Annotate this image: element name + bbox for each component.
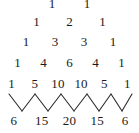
- triangle-row-5: 1 5 10 10 5 1: [0, 77, 139, 90]
- triangle-row-6: 6 15 20 15 6: [0, 114, 139, 127]
- connector-stroke: [87, 94, 99, 111]
- triangle-cell: 1: [46, 0, 59, 10]
- pascal-triangle-figure: 1 1 1 2 1 1 3 3 1 1 4 6 4 1 1 5 10 10 5 …: [0, 0, 139, 133]
- triangle-cell: 1: [20, 35, 33, 48]
- connector-stroke: [48, 94, 61, 111]
- triangle-cell: 6: [116, 114, 134, 127]
- triangle-cell: 10: [74, 77, 89, 90]
- triangle-cell: 1: [107, 35, 120, 48]
- triangle-row-3: 1 3 3 1: [0, 35, 139, 48]
- triangle-cell: 4: [37, 56, 51, 69]
- triangle-cell: 15: [33, 114, 51, 127]
- connector-stroke: [22, 94, 35, 111]
- triangle-cell: 1: [96, 15, 109, 28]
- triangle-cell: 6: [5, 114, 23, 127]
- triangle-cell: 1: [4, 77, 19, 90]
- connector-stroke: [74, 94, 87, 111]
- triangle-cell: 2: [63, 15, 76, 28]
- triangle-cell: 3: [78, 35, 91, 48]
- connector-stroke: [99, 94, 111, 111]
- triangle-cell: 15: [88, 114, 106, 127]
- triangle-row-2: 1 2 1: [0, 15, 139, 28]
- triangle-cell: 3: [49, 35, 62, 48]
- triangle-cell: 1: [115, 56, 129, 69]
- triangle-cell: 1: [120, 77, 135, 90]
- triangle-cell: 6: [63, 56, 77, 69]
- triangle-cell: 1: [81, 0, 94, 10]
- triangle-cell: 10: [50, 77, 65, 90]
- triangle-row-4: 1 4 6 4 1: [0, 56, 139, 69]
- connector-stroke: [61, 94, 74, 111]
- triangle-cell: 5: [27, 77, 42, 90]
- triangle-cell: 20: [61, 114, 79, 127]
- connector-stroke: [111, 94, 122, 111]
- connector-stroke: [9, 94, 22, 111]
- triangle-cell: 5: [97, 77, 112, 90]
- triangle-row-1: 1 1: [0, 0, 139, 10]
- connector-stroke: [35, 94, 48, 111]
- triangle-cell: 1: [11, 56, 25, 69]
- connector-stroke: [122, 94, 132, 111]
- triangle-cell: 4: [89, 56, 103, 69]
- triangle-cell: 1: [30, 15, 43, 28]
